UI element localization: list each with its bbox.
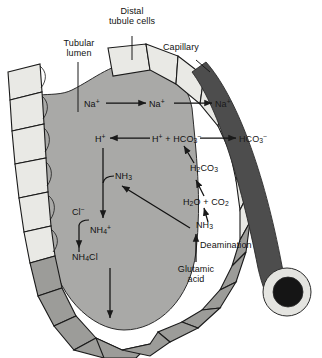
label-tubular-lumen-line1: Tubular bbox=[64, 38, 95, 48]
nh4cl-cl: Cl bbox=[89, 252, 98, 262]
na-cell-sup: + bbox=[161, 98, 165, 105]
label-glutamic-acid: Glutamic acid bbox=[165, 264, 227, 284]
hhco3-sup: − bbox=[197, 133, 201, 140]
h2co3-co3: CO bbox=[201, 163, 215, 173]
label-na-lumen: Na+ bbox=[84, 97, 100, 109]
na-cell-base: Na bbox=[149, 99, 161, 109]
cl-sup: − bbox=[81, 206, 85, 213]
na-cap-sup: + bbox=[227, 98, 231, 105]
na-lumen-base: Na bbox=[84, 99, 96, 109]
label-na-capillary: Na+ bbox=[215, 97, 231, 109]
hhco3-h: H bbox=[152, 134, 159, 144]
h2o-h: H bbox=[183, 197, 190, 207]
label-tubular-lumen-line2: lumen bbox=[66, 48, 91, 58]
nh4-base: NH bbox=[90, 225, 103, 235]
nh3lumen-base: NH bbox=[115, 171, 128, 181]
co2-base: CO bbox=[211, 197, 225, 207]
nh3lumen-sub: 3 bbox=[128, 174, 132, 181]
nh3cell-sub: 3 bbox=[209, 223, 213, 230]
hhco3-base: HCO bbox=[173, 134, 193, 144]
co2-sub: 2 bbox=[225, 200, 229, 207]
h2o-o: O bbox=[194, 197, 201, 207]
label-cl-minus: Cl− bbox=[72, 205, 85, 217]
label-nh4-plus: NH4+ bbox=[90, 223, 111, 237]
label-tubular-lumen: Tubular lumen bbox=[48, 38, 110, 58]
h-lumen-sup: + bbox=[102, 133, 106, 140]
nh4-sup: + bbox=[107, 224, 111, 231]
label-capillary: Capillary bbox=[163, 42, 199, 52]
na-lumen-sup: + bbox=[96, 98, 100, 105]
label-nh3-cell: NH3 bbox=[196, 220, 213, 232]
label-h2o-co2: H2O + CO2 bbox=[183, 197, 229, 209]
nh4cl-nh: NH bbox=[72, 252, 85, 262]
label-hco3-capillary: HCO3− bbox=[239, 132, 267, 146]
label-nh3-lumen: NH3 bbox=[115, 171, 132, 183]
cl-base: Cl bbox=[72, 207, 81, 217]
h2o-plus: + bbox=[201, 197, 212, 207]
glutamic-line2: acid bbox=[188, 274, 205, 284]
hco3cap-base: HCO bbox=[239, 134, 259, 144]
hco3cap-sup: − bbox=[263, 133, 267, 140]
glutamic-line1: Glutamic bbox=[178, 264, 214, 274]
label-h2co3: H2CO3 bbox=[190, 163, 218, 175]
h2co3-co3-sub: 3 bbox=[214, 166, 218, 173]
h2co3-h: H bbox=[190, 163, 197, 173]
na-cap-base: Na bbox=[215, 99, 227, 109]
h-lumen-base: H bbox=[95, 134, 102, 144]
label-nh4cl: NH4Cl bbox=[72, 252, 98, 264]
label-distal-line2: tubule cells bbox=[109, 16, 155, 26]
label-distal-tubule-cells: Distal tubule cells bbox=[92, 6, 172, 26]
nh3cell-base: NH bbox=[196, 220, 209, 230]
diagram-canvas: Tubular lumen Distal tubule cells Capill… bbox=[0, 0, 322, 358]
label-h-lumen: H+ bbox=[95, 132, 106, 144]
hhco3-plus: + bbox=[163, 134, 174, 144]
label-distal-line1: Distal bbox=[120, 6, 143, 16]
label-na-cell: Na+ bbox=[149, 97, 165, 109]
tubular-lumen-shape bbox=[40, 62, 199, 330]
label-deamination: Deamination bbox=[200, 240, 252, 250]
label-h-plus-hco3: H+ + HCO3− bbox=[152, 132, 202, 146]
